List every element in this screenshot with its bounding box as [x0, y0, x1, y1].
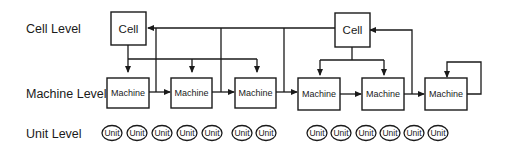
hierarchy-diagram: Cell Level Machine Level Unit Level Cell: [0, 0, 505, 160]
machine-box-4: Machine: [298, 78, 340, 110]
machine-label: Machine: [174, 88, 208, 98]
cell-box-1: Cell: [111, 12, 146, 45]
svg-text:Unit: Unit: [333, 128, 349, 138]
unit-node: Unit: [127, 126, 147, 141]
unit-node: Unit: [307, 126, 327, 141]
svg-text:Unit: Unit: [154, 128, 170, 138]
unit-node: Unit: [428, 126, 448, 141]
svg-text:Unit: Unit: [258, 128, 274, 138]
unit-node: Unit: [232, 126, 252, 141]
machine-label: Machine: [111, 88, 145, 98]
cell-label: Cell: [343, 24, 363, 36]
machine-box-6: Machine: [425, 78, 467, 110]
machine-box-1: Machine: [107, 78, 149, 108]
unit-node: Unit: [202, 126, 222, 141]
svg-text:Unit: Unit: [104, 128, 120, 138]
svg-text:Unit: Unit: [430, 128, 446, 138]
unit-level-label: Unit Level: [26, 127, 82, 141]
unit-node: Unit: [356, 126, 376, 141]
machine-label: Machine: [366, 89, 400, 99]
cell-level-label: Cell Level: [26, 22, 81, 36]
machine-label: Machine: [429, 89, 463, 99]
unit-group-3: Unit Unit Unit Unit Unit Unit: [307, 126, 448, 141]
unit-node: Unit: [331, 126, 351, 141]
unit-node: Unit: [102, 126, 122, 141]
svg-text:Unit: Unit: [204, 128, 220, 138]
unit-group-1: Unit Unit Unit Unit Unit: [102, 126, 222, 141]
svg-text:Unit: Unit: [234, 128, 250, 138]
unit-node: Unit: [256, 126, 276, 141]
unit-node: Unit: [380, 126, 400, 141]
svg-text:Unit: Unit: [406, 128, 422, 138]
machine-box-5: Machine: [362, 78, 404, 110]
machine-label: Machine: [302, 89, 336, 99]
unit-node: Unit: [177, 126, 197, 141]
cell-label: Cell: [119, 23, 139, 35]
unit-node: Unit: [404, 126, 424, 141]
svg-text:Unit: Unit: [382, 128, 398, 138]
machine-level-label: Machine Level: [26, 87, 107, 101]
machine-label: Machine: [238, 88, 272, 98]
unit-group-2: Unit Unit: [232, 126, 276, 141]
unit-node: Unit: [152, 126, 172, 141]
machine-box-3: Machine: [235, 78, 276, 108]
svg-text:Unit: Unit: [358, 128, 374, 138]
svg-text:Unit: Unit: [309, 128, 325, 138]
svg-text:Unit: Unit: [179, 128, 195, 138]
machine-box-2: Machine: [171, 78, 212, 108]
svg-text:Unit: Unit: [129, 128, 145, 138]
cell-box-2: Cell: [335, 13, 370, 47]
